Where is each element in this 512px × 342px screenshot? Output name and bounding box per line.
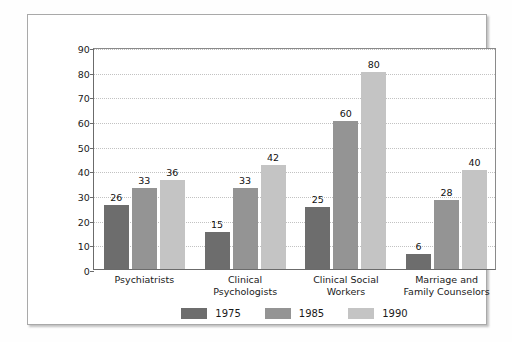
bar-value-label: 6 [416, 241, 422, 252]
bar-value-label: 42 [267, 152, 279, 163]
chart-legend: 197519851990 [93, 308, 496, 319]
y-axis-tick-label: 60 [78, 118, 90, 129]
bar-1990-3[interactable]: 80 [361, 72, 386, 269]
legend-label: 1975 [215, 308, 240, 319]
x-axis-category-label: Clinical SocialWorkers [313, 274, 378, 298]
legend-label: 1990 [382, 308, 407, 319]
bar-1975-3[interactable]: 25 [305, 207, 330, 269]
bar-value-label: 80 [368, 59, 380, 70]
bar-value-label: 36 [166, 167, 178, 178]
bar-group: 256080Clinical SocialWorkers [296, 49, 397, 269]
y-axis-tick-label: 20 [78, 216, 90, 227]
y-axis-tick-label: 90 [78, 44, 90, 55]
bar-group: 62840Marriage andFamily Counselors [396, 49, 497, 269]
bar-value-label: 33 [138, 175, 150, 186]
legend-item-1990[interactable]: 1990 [348, 308, 407, 319]
y-axis-tick-label: 70 [78, 93, 90, 104]
x-axis-category-label: ClinicalPsychologists [213, 274, 277, 298]
legend-item-1975[interactable]: 1975 [181, 308, 240, 319]
bar-1990-4[interactable]: 40 [462, 170, 487, 269]
bar-value-label: 15 [211, 219, 223, 230]
legend-swatch-icon [181, 308, 207, 319]
bar-1985-3[interactable]: 60 [333, 121, 358, 269]
y-axis-tick-label: 80 [78, 68, 90, 79]
bar-1985-1[interactable]: 33 [132, 188, 157, 269]
y-axis-tick-label: 30 [78, 192, 90, 203]
bar-group: 263336Psychiatrists [94, 49, 195, 269]
x-axis-category-label: Marriage andFamily Counselors [404, 274, 490, 298]
bar-1990-2[interactable]: 42 [261, 165, 286, 269]
bar-1975-4[interactable]: 6 [406, 254, 431, 269]
screenshot-root: 0102030405060708090263336Psychiatrists15… [0, 0, 512, 342]
bar-1990-1[interactable]: 36 [160, 180, 185, 269]
chart-outer-frame: 0102030405060708090263336Psychiatrists15… [27, 14, 487, 325]
legend-swatch-icon [348, 308, 374, 319]
bar-group: 153342ClinicalPsychologists [195, 49, 296, 269]
bar-value-label: 26 [110, 192, 122, 203]
bar-value-label: 40 [469, 157, 481, 168]
plot-area: 0102030405060708090263336Psychiatrists15… [93, 48, 496, 270]
y-axis-tick-mark [90, 271, 94, 272]
bar-value-label: 25 [312, 194, 324, 205]
bar-value-label: 33 [239, 175, 251, 186]
y-axis-tick-label: 50 [78, 142, 90, 153]
y-axis-tick-label: 10 [78, 241, 90, 252]
bar-1975-2[interactable]: 15 [205, 232, 230, 269]
bar-value-label: 60 [340, 108, 352, 119]
x-axis-category-label: Psychiatrists [115, 274, 175, 286]
bar-value-label: 28 [441, 187, 453, 198]
bar-1985-4[interactable]: 28 [434, 200, 459, 269]
legend-label: 1985 [299, 308, 324, 319]
chart-figure: 0102030405060708090263336Psychiatrists15… [66, 34, 507, 294]
y-axis-tick-label: 40 [78, 167, 90, 178]
bar-1985-2[interactable]: 33 [233, 188, 258, 269]
legend-item-1985[interactable]: 1985 [265, 308, 324, 319]
legend-swatch-icon [265, 308, 291, 319]
bar-1975-1[interactable]: 26 [104, 205, 129, 269]
